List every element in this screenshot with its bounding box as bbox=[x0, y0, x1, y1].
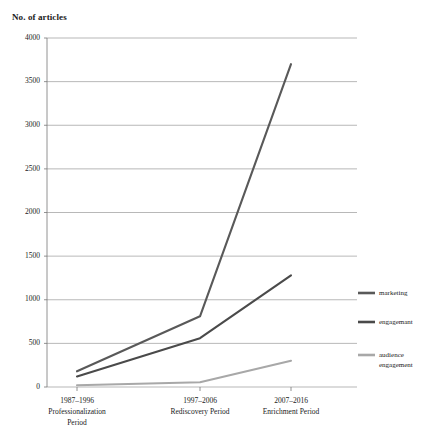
y-tick-label: 500 bbox=[29, 338, 41, 347]
legend-label: engagement bbox=[379, 361, 413, 369]
y-tick-label: 3000 bbox=[25, 120, 40, 129]
y-tick-labels-group: 05001000150020002500300035004000 bbox=[25, 33, 40, 391]
legend-group: marketingengagemantaudienceengagement bbox=[358, 289, 413, 369]
series-line-engagemant bbox=[77, 275, 291, 376]
y-tick-label: 1500 bbox=[25, 251, 40, 260]
y-tick-label: 2000 bbox=[25, 207, 40, 216]
legend-label: audience bbox=[379, 351, 404, 359]
gridlines-group bbox=[47, 38, 357, 387]
legend-label: engagemant bbox=[379, 318, 413, 326]
series-line-marketing bbox=[77, 64, 291, 371]
y-tick-label: 4000 bbox=[25, 33, 40, 42]
axes-group bbox=[44, 38, 291, 391]
x-tick-label: 1987–1996 bbox=[60, 396, 94, 405]
x-tick-label: 1997–2006 bbox=[183, 396, 217, 405]
legend-label: marketing bbox=[379, 289, 408, 297]
y-tick-label: 0 bbox=[36, 382, 40, 391]
line-chart-plot: 05001000150020002500300035004000 1987–19… bbox=[0, 0, 435, 438]
x-tick-label: Period bbox=[67, 418, 87, 427]
y-tick-label: 2500 bbox=[25, 164, 40, 173]
x-tick-label: 2007–2016 bbox=[274, 396, 308, 405]
chart-container: No. of articles 050010001500200025003000… bbox=[0, 0, 435, 438]
x-tick-label: Professionalization bbox=[48, 407, 106, 416]
x-tick-label: Enrichment Period bbox=[263, 407, 320, 416]
x-tick-label: Rediscovery Period bbox=[171, 407, 230, 416]
series-line-audience-engagement bbox=[77, 361, 291, 385]
y-tick-label: 3500 bbox=[25, 76, 40, 85]
series-lines-group bbox=[77, 64, 291, 385]
x-tick-labels-group: 1987–1996ProfessionalizationPeriod1997–2… bbox=[48, 396, 319, 427]
y-tick-label: 1000 bbox=[25, 294, 40, 303]
